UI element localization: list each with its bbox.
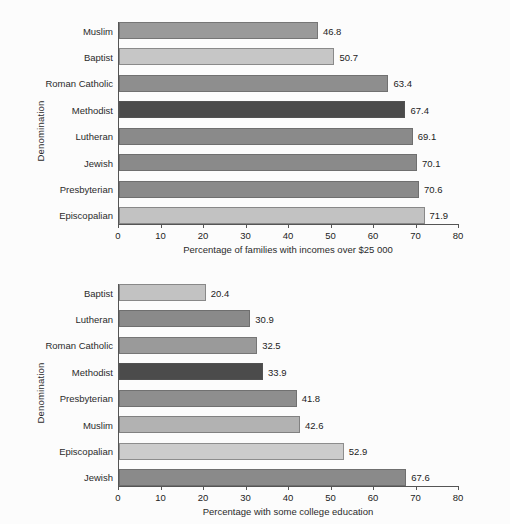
bar-row: Lutheran30.9	[119, 310, 458, 327]
x-tick	[161, 224, 162, 228]
x-tick	[373, 486, 374, 490]
category-label: Presbyterian	[60, 184, 113, 195]
bar-rows-income: Muslim46.8Baptist50.7Roman Catholic63.4M…	[119, 22, 458, 224]
bar-value-label: 71.9	[430, 210, 449, 221]
x-tick-label: 40	[283, 492, 294, 503]
x-tick-label: 40	[283, 230, 294, 241]
bar-value-label: 20.4	[211, 287, 230, 298]
bar-row: Jewish67.6	[119, 469, 458, 486]
bar	[119, 390, 297, 407]
bar-row: Baptist50.7	[119, 48, 458, 65]
bar	[119, 48, 334, 65]
bar	[119, 416, 300, 433]
x-tick	[331, 224, 332, 228]
x-tick	[203, 486, 204, 490]
bar-row: Roman Catholic63.4	[119, 75, 458, 92]
x-axis-ticks-income: 01020304050607080	[118, 224, 458, 246]
x-tick-label: 30	[240, 230, 251, 241]
y-axis-title: Denomination	[35, 362, 46, 423]
x-axis-title: Percentage with some college education	[118, 506, 458, 517]
x-tick	[458, 486, 459, 490]
bar-row: Muslim46.8	[119, 22, 458, 39]
category-label: Episcopalian	[59, 210, 113, 221]
bar-value-label: 30.9	[255, 313, 274, 324]
bar-value-label: 70.1	[422, 157, 441, 168]
x-tick	[288, 486, 289, 490]
category-label: Presbyterian	[60, 393, 113, 404]
x-tick-label: 10	[155, 492, 166, 503]
bar-value-label: 63.4	[393, 78, 412, 89]
bar-row: Methodist33.9	[119, 363, 458, 380]
bar	[119, 22, 318, 39]
category-label: Jewish	[84, 157, 113, 168]
category-label: Lutheran	[75, 131, 113, 142]
plot-area-college: Baptist20.4Lutheran30.9Roman Catholic32.…	[118, 284, 458, 486]
bar-row: Episcopalian71.9	[119, 207, 458, 224]
x-tick	[331, 486, 332, 490]
bar-row: Episcopalian52.9	[119, 443, 458, 460]
bar-value-label: 32.5	[262, 340, 281, 351]
bar-value-label: 67.6	[411, 472, 430, 483]
bar-value-label: 50.7	[339, 51, 358, 62]
category-label: Jewish	[84, 472, 113, 483]
x-tick	[458, 224, 459, 228]
bar-rows-college: Baptist20.4Lutheran30.9Roman Catholic32.…	[119, 284, 458, 486]
category-label: Roman Catholic	[45, 340, 113, 351]
x-tick-label: 10	[155, 230, 166, 241]
bar	[119, 154, 417, 171]
x-tick-label: 20	[198, 230, 209, 241]
bar-value-label: 42.6	[305, 419, 324, 430]
x-tick-label: 80	[453, 492, 464, 503]
bar-value-label: 41.8	[302, 393, 321, 404]
x-tick-label: 60	[368, 492, 379, 503]
bar-value-label: 33.9	[268, 366, 287, 377]
x-tick-label: 20	[198, 492, 209, 503]
bar	[119, 75, 388, 92]
plot-area-income: Muslim46.8Baptist50.7Roman Catholic63.4M…	[118, 22, 458, 224]
category-label: Roman Catholic	[45, 78, 113, 89]
x-tick-label: 0	[115, 492, 120, 503]
x-tick	[246, 486, 247, 490]
category-label: Methodist	[72, 366, 113, 377]
college-chart: Denomination Baptist20.4Lutheran30.9Roma…	[0, 262, 510, 524]
bar	[119, 337, 257, 354]
bar-row: Muslim42.6	[119, 416, 458, 433]
category-label: Baptist	[84, 287, 113, 298]
bar	[119, 207, 425, 224]
bar-row: Jewish70.1	[119, 154, 458, 171]
category-label: Muslim	[83, 25, 113, 36]
x-tick	[416, 224, 417, 228]
income-chart: Denomination Muslim46.8Baptist50.7Roman …	[0, 0, 510, 262]
bar-value-label: 52.9	[349, 446, 368, 457]
x-axis-title: Percentage of families with incomes over…	[118, 244, 458, 255]
bar	[119, 310, 250, 327]
category-label: Muslim	[83, 419, 113, 430]
bar	[119, 128, 413, 145]
x-tick-label: 50	[325, 492, 336, 503]
bar-row: Presbyterian41.8	[119, 390, 458, 407]
chart-page: Denomination Muslim46.8Baptist50.7Roman …	[0, 0, 510, 524]
x-tick-label: 70	[410, 492, 421, 503]
y-axis-title: Denomination	[35, 100, 46, 161]
x-tick-label: 50	[325, 230, 336, 241]
x-axis-ticks-college: 01020304050607080	[118, 486, 458, 508]
x-tick-label: 60	[368, 230, 379, 241]
x-tick	[118, 486, 119, 490]
bar	[119, 469, 406, 486]
x-tick	[118, 224, 119, 228]
bar	[119, 443, 344, 460]
x-tick	[288, 224, 289, 228]
x-tick	[416, 486, 417, 490]
bar	[119, 181, 419, 198]
bar-row: Lutheran69.1	[119, 128, 458, 145]
x-tick	[203, 224, 204, 228]
bar-value-label: 67.4	[410, 104, 429, 115]
category-label: Methodist	[72, 104, 113, 115]
bar-value-label: 46.8	[323, 25, 342, 36]
category-label: Baptist	[84, 51, 113, 62]
bar-value-label: 70.6	[424, 184, 443, 195]
bar	[119, 101, 405, 118]
bar	[119, 363, 263, 380]
x-tick-label: 70	[410, 230, 421, 241]
bar-row: Methodist67.4	[119, 101, 458, 118]
